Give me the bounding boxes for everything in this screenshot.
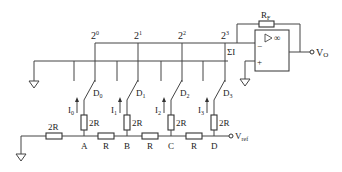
node-label-a: A [81, 141, 88, 151]
ground-icon [240, 79, 250, 86]
switch-label-1: D1 [136, 88, 146, 99]
dac-circuit-diagram: 20 21 22 23 ΣI RF ∞ − + VO D0 D1 D2 D3 I… [0, 0, 342, 172]
switch-label-0: D0 [93, 88, 103, 99]
weight-label-3: 23 [221, 30, 229, 41]
branch-resistor-label-0: 2R [89, 118, 100, 128]
current-label-1: I1 [111, 105, 117, 116]
termination-resistor-label: 2R [48, 122, 59, 132]
node-label-b: B [124, 141, 130, 151]
weight-label-2: 22 [178, 30, 186, 41]
series-resistor-ab [98, 133, 114, 139]
series-resistor-label-2: R [191, 141, 197, 151]
branch-resistor-2 [168, 115, 174, 130]
opamp-infinity-label: ∞ [274, 33, 280, 43]
ground-icon [29, 81, 39, 88]
feedback-resistor [259, 21, 274, 27]
branch-resistor-0 [81, 115, 87, 130]
ground-icon [16, 154, 26, 161]
output-label: VO [316, 47, 328, 59]
sum-label: ΣI [227, 47, 235, 57]
current-arrow-0 [75, 97, 79, 113]
current-arrow-3 [205, 97, 209, 113]
feedback-resistor-label: RF [261, 10, 271, 21]
current-label-3: I3 [198, 105, 204, 116]
weight-label-1: 21 [134, 30, 142, 41]
branch-resistor-1 [124, 115, 130, 130]
current-label-2: I2 [155, 105, 161, 116]
current-arrow-1 [118, 97, 122, 113]
opamp-plus-label: + [257, 57, 262, 67]
weight-label-0: 20 [91, 30, 99, 41]
current-label-0: I0 [68, 105, 74, 116]
series-resistor-bc [142, 133, 158, 139]
opamp-minus-label: − [257, 41, 262, 51]
series-resistor-label-1: R [147, 141, 153, 151]
switch-label-3: D3 [223, 88, 233, 99]
series-resistor-label-0: R [103, 141, 109, 151]
branch-resistor-label-3: 2R [219, 118, 230, 128]
branch-resistor-label-1: 2R [132, 118, 143, 128]
node-label-c: C [168, 141, 174, 151]
switch-label-2: D2 [180, 88, 190, 99]
branch-resistor-3 [211, 115, 217, 130]
termination-resistor [46, 133, 62, 139]
vref-terminal [229, 134, 233, 138]
vo-terminal [310, 50, 314, 54]
branch-resistor-label-2: 2R [176, 118, 187, 128]
reference-label: Vref [235, 131, 248, 142]
current-arrow-2 [162, 97, 166, 113]
node-label-d: D [211, 141, 218, 151]
series-resistor-cd [186, 133, 202, 139]
